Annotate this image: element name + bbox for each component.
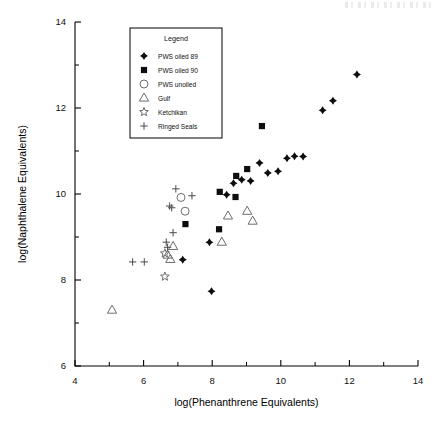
data-point bbox=[208, 287, 216, 295]
data-point bbox=[291, 152, 299, 160]
y-tick-label: 10 bbox=[55, 188, 66, 199]
data-point bbox=[256, 159, 264, 167]
series-pws-unoiled bbox=[177, 193, 189, 215]
data-point bbox=[329, 97, 337, 105]
data-point bbox=[163, 238, 170, 245]
y-tick-label: 8 bbox=[61, 274, 66, 285]
data-point bbox=[166, 202, 173, 209]
y-tick-label: 14 bbox=[55, 16, 66, 27]
data-point bbox=[168, 204, 175, 211]
x-tick-label: 4 bbox=[72, 375, 77, 386]
x-axis-ticks: 468101214 bbox=[72, 360, 423, 386]
legend-label: Gulf bbox=[158, 95, 170, 102]
data-point bbox=[259, 123, 265, 129]
x-tick-label: 14 bbox=[413, 375, 424, 386]
data-point bbox=[177, 193, 185, 201]
x-axis-title: log(Phenanthrene Equivalents) bbox=[174, 396, 318, 408]
plot-canvas: 68101214468101214log(Phenanthrene Equiva… bbox=[0, 0, 438, 430]
y-axis-ticks: 68101214 bbox=[55, 16, 81, 371]
data-point bbox=[229, 179, 237, 187]
data-point bbox=[172, 185, 179, 192]
data-point bbox=[223, 191, 231, 199]
data-point bbox=[217, 189, 223, 195]
data-point bbox=[141, 258, 148, 265]
data-point bbox=[107, 305, 116, 313]
data-point bbox=[168, 241, 177, 249]
data-point bbox=[182, 221, 188, 227]
data-point bbox=[216, 226, 222, 232]
data-point bbox=[233, 173, 239, 179]
y-tick-label: 12 bbox=[55, 102, 66, 113]
y-tick-label: 6 bbox=[61, 360, 66, 371]
legend-title: Legend bbox=[164, 34, 188, 43]
data-point bbox=[353, 70, 361, 78]
data-point bbox=[248, 216, 257, 224]
x-tick-label: 10 bbox=[276, 375, 287, 386]
series-ketchikan bbox=[160, 249, 169, 281]
legend: LegendPWS oiled 89PWS oiled 90PWS unoile… bbox=[130, 28, 222, 138]
legend-label: PWS oiled 89 bbox=[158, 53, 198, 60]
data-point bbox=[243, 206, 252, 214]
legend-label: PWS oiled 90 bbox=[158, 67, 198, 74]
legend-marker-filled-square bbox=[141, 67, 147, 73]
scatter-plot-figure: 68101214468101214log(Phenanthrene Equiva… bbox=[0, 0, 438, 430]
data-point bbox=[319, 106, 327, 114]
legend-label: Ketchikan bbox=[158, 109, 187, 116]
data-point bbox=[283, 154, 291, 162]
data-point bbox=[299, 153, 307, 161]
data-point bbox=[188, 192, 195, 199]
data-point bbox=[217, 237, 226, 245]
data-point bbox=[223, 211, 232, 219]
axis-lines bbox=[75, 22, 418, 366]
data-point bbox=[274, 167, 282, 175]
data-point bbox=[205, 238, 213, 246]
x-tick-label: 6 bbox=[141, 375, 146, 386]
data-point bbox=[160, 272, 169, 280]
x-tick-label: 12 bbox=[344, 375, 355, 386]
x-tick-label: 8 bbox=[210, 375, 215, 386]
data-point bbox=[129, 258, 136, 265]
data-point bbox=[179, 256, 187, 264]
data-point bbox=[264, 169, 272, 177]
legend-label: Ringed Seals bbox=[158, 123, 198, 131]
data-point bbox=[181, 207, 189, 215]
data-point bbox=[244, 166, 250, 172]
data-point bbox=[169, 229, 176, 236]
legend-label: PWS unoiled bbox=[158, 81, 196, 88]
data-point bbox=[247, 177, 255, 185]
y-axis-title: log(Naphthalene Equivalents) bbox=[16, 125, 28, 263]
data-point bbox=[232, 194, 238, 200]
